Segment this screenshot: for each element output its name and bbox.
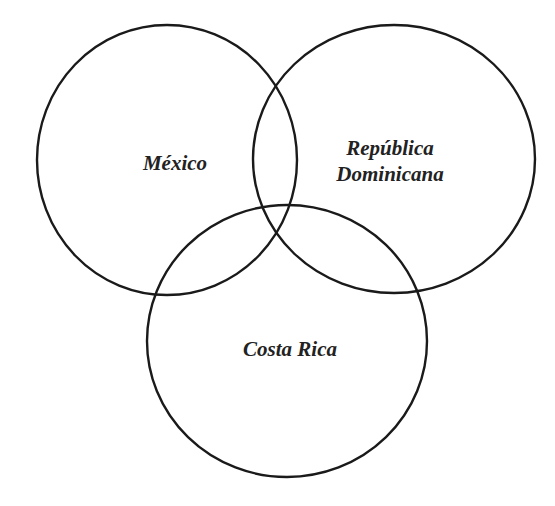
venn-diagram [0, 0, 555, 506]
label-republica-dominicana: República Dominicana [315, 135, 465, 187]
label-republica-line1: República [315, 135, 465, 161]
label-dominicana-line2: Dominicana [315, 161, 465, 187]
label-mexico: México [110, 150, 240, 176]
label-costa-rica: Costa Rica [210, 336, 370, 362]
